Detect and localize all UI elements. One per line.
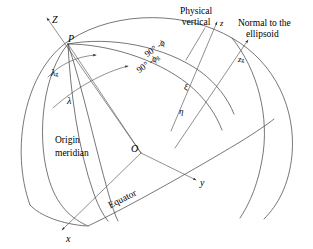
sphere-limb-lower	[30, 205, 86, 226]
angle-label-xi-text: ξ	[184, 82, 188, 92]
callout-origin-meridian-line1: Origin	[55, 134, 89, 147]
callout-normal-to-ellipsoid: Normal to the ellipsoid	[238, 18, 291, 40]
angle-label-eta-text: η	[179, 106, 183, 116]
point-label-P-text: P	[68, 33, 74, 44]
geodetic-coordinate-diagram: Z P O λg λ 90° -ϕ 90° -ϕg ξ η Physical v…	[0, 0, 313, 249]
callout-origin-meridian: Origin meridian	[55, 134, 89, 160]
angle-label-xi: ξ	[184, 76, 188, 94]
meridian-through-P-geodetic	[68, 44, 108, 221]
axis-label-zg-sub: g	[241, 57, 244, 63]
angle-label-lambda-g: λg	[51, 62, 58, 80]
axis-label-y-text: y	[200, 177, 204, 188]
axis-label-y: y	[200, 172, 204, 190]
callout-normal-line2: ellipsoid	[246, 29, 291, 40]
lambda-arc	[53, 66, 128, 108]
y-axis-line	[141, 153, 196, 180]
angle-label-lambda-g-sub: g	[55, 71, 58, 77]
ellipsoid-right-profile	[232, 38, 264, 218]
axis-label-Z-text: Z	[52, 14, 58, 25]
callout-physical-vertical-line1: Physical	[180, 6, 212, 17]
axis-label-z-text: z	[220, 18, 223, 28]
axis-label-x-text: x	[66, 233, 70, 244]
axis-label-x: x	[66, 228, 70, 246]
angle-label-lambda-text: λ	[67, 95, 71, 106]
physical-vertical-leader	[186, 28, 205, 60]
axis-label-zg: zg	[238, 48, 244, 66]
callout-physical-vertical: Physical vertical	[180, 6, 212, 28]
point-label-P: P	[68, 28, 74, 46]
point-label-O-text: O	[131, 143, 138, 154]
callout-origin-meridian-line2: meridian	[55, 147, 89, 160]
axis-label-z: z	[220, 12, 223, 30]
Z-axis-line	[47, 18, 141, 153]
angle-label-eta: η	[179, 100, 183, 118]
point-label-O: O	[131, 138, 138, 156]
angle-label-lambda: λ	[67, 90, 71, 108]
axis-label-Z: Z	[52, 9, 58, 27]
callout-physical-vertical-line2: vertical	[180, 17, 212, 28]
callout-normal-line1: Normal to the	[238, 18, 291, 29]
